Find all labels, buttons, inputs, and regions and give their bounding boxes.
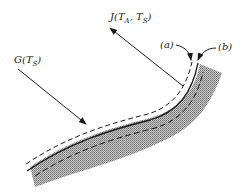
label-radiosity: J(TA, TS) [110, 12, 151, 25]
diagram-canvas [0, 0, 248, 195]
label-surface-a: (a) [160, 40, 174, 50]
incident-arrow [18, 69, 86, 124]
surface-radiation-diagram: G(TS) J(TA, TS) (a) (b) [0, 0, 248, 195]
pointer-a [176, 45, 191, 60]
emitted-arrow [110, 28, 183, 86]
solid-body [30, 64, 222, 187]
label-surface-b: (b) [218, 42, 232, 52]
label-incident-irradiation: G(TS) [14, 55, 41, 68]
pointer-b [198, 48, 216, 60]
